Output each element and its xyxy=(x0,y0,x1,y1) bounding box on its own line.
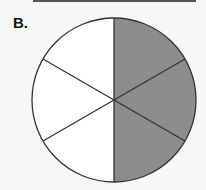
fraction-circle xyxy=(0,0,206,190)
